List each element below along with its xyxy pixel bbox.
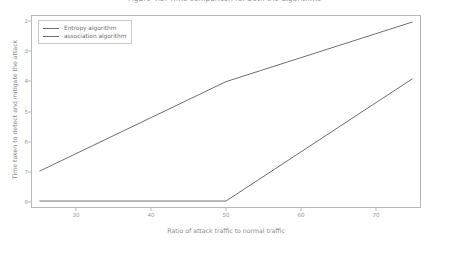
x-tick-label: 60 <box>297 212 304 218</box>
y-tick-mark <box>28 81 31 82</box>
legend-label: association algorithm <box>64 32 126 40</box>
legend-line-swatch-icon <box>43 28 59 29</box>
y-tick-mark <box>28 171 31 172</box>
line-entropy-algorithm <box>39 22 412 171</box>
x-tick-label: 70 <box>372 212 379 218</box>
legend-item-entropy-algorithm: Entropy algorithm <box>43 24 126 32</box>
x-axis-tick-labels: 3040506070 <box>31 212 421 220</box>
x-tick-label: 30 <box>72 212 79 218</box>
x-tick-mark <box>301 208 302 211</box>
y-tick-mark <box>28 21 31 22</box>
x-tick-mark <box>376 208 377 211</box>
legend-label: Entropy algorithm <box>64 24 116 32</box>
y-tick-mark <box>28 201 31 202</box>
x-axis-title: Ratio of attack traffic to normal traffi… <box>31 226 421 235</box>
legend-line-swatch-icon <box>43 36 59 37</box>
y-tick-mark <box>28 111 31 112</box>
chart-legend: Entropy algorithm association algorithm <box>38 20 132 44</box>
y-axis-title: Time taken to detect and mitigate the at… <box>10 10 19 210</box>
line-association-algorithm <box>39 79 412 201</box>
x-tick-mark <box>151 208 152 211</box>
chart-figure: Figure 4.2. Time comparison for both the… <box>0 0 449 255</box>
x-tick-label: 40 <box>147 212 154 218</box>
plot-area: Entropy algorithm association algorithm <box>31 15 421 208</box>
x-tick-mark <box>76 208 77 211</box>
plot-lines <box>32 16 420 207</box>
x-tick-mark <box>226 208 227 211</box>
y-tick-mark <box>28 141 31 142</box>
x-tick-label: 50 <box>222 212 229 218</box>
legend-item-association-algorithm: association algorithm <box>43 32 126 40</box>
y-tick-mark <box>28 51 31 52</box>
chart-title: Figure 4.2. Time comparison for both the… <box>0 0 449 4</box>
